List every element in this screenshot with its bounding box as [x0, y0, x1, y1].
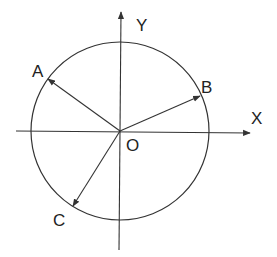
y-axis-label: Y [136, 16, 147, 35]
point-a-label: A [32, 62, 44, 81]
vector-ob [120, 96, 200, 131]
point-b-label: B [201, 78, 212, 97]
diagram-svg: Y X O A B C [0, 0, 277, 257]
vector-oa [48, 79, 120, 131]
x-axis [16, 131, 250, 133]
origin-label: O [126, 136, 139, 155]
point-c-label: C [53, 211, 65, 230]
vector-oc [73, 131, 120, 206]
x-axis-label: X [251, 109, 262, 128]
vector-diagram: Y X O A B C [0, 0, 277, 257]
